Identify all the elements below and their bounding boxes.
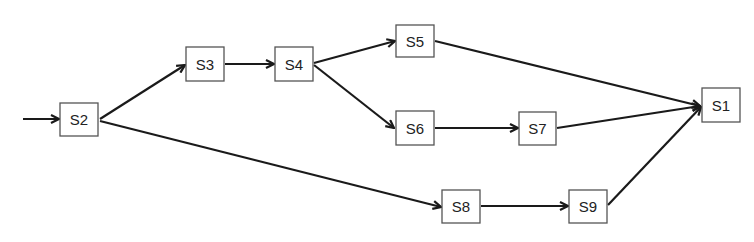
node-s1: S1: [702, 88, 740, 122]
node-s7-label: S7: [528, 120, 546, 137]
edge-s7-s1: [557, 106, 700, 128]
node-s4-label: S4: [285, 56, 303, 73]
node-s6-label: S6: [406, 120, 424, 137]
node-s8-label: S8: [452, 198, 470, 215]
edges: [23, 41, 701, 207]
node-s8: S8: [442, 190, 480, 223]
node-s6: S6: [396, 111, 434, 145]
flow-diagram: S1 S2 S3 S4 S5 S6 S7 S8: [0, 0, 754, 242]
node-s4: S4: [275, 47, 313, 81]
node-s9-label: S9: [579, 198, 597, 215]
edge-s5-s1: [435, 41, 700, 106]
edge-s4-s6: [314, 65, 394, 128]
node-s3-label: S3: [196, 56, 214, 73]
edge-s2-s8: [100, 121, 441, 207]
edge-s4-s5: [314, 41, 395, 63]
node-s3: S3: [186, 47, 224, 81]
node-s2: S2: [60, 103, 98, 136]
node-s5-label: S5: [406, 33, 424, 50]
node-s2-label: S2: [70, 111, 88, 128]
node-s5: S5: [396, 25, 434, 57]
node-s1-label: S1: [712, 97, 730, 114]
nodes: S1 S2 S3 S4 S5 S6 S7 S8: [60, 25, 740, 223]
node-s7: S7: [519, 112, 556, 145]
node-s9: S9: [569, 190, 607, 223]
edge-s2-s3: [100, 65, 185, 119]
edge-s9-s1: [608, 107, 701, 205]
